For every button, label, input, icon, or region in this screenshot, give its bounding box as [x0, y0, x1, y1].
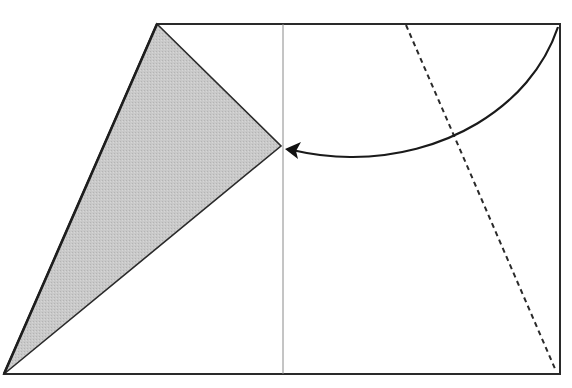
folding-diagram [0, 0, 572, 388]
